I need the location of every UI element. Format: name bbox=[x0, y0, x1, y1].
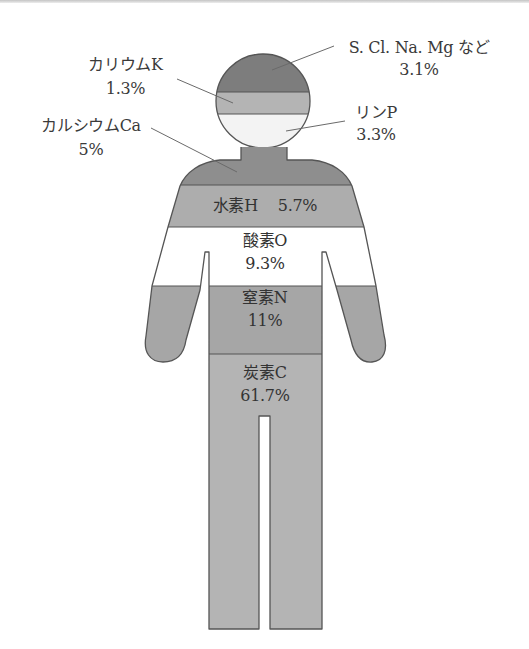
band-other-elements bbox=[200, 50, 330, 92]
label-oxygen-value: 9.3% bbox=[215, 254, 315, 274]
label-carbon: 炭素C 61.7% bbox=[215, 363, 315, 406]
label-calcium-name: カルシウムCa bbox=[28, 116, 154, 136]
label-hydrogen-name: 水素H bbox=[213, 196, 258, 215]
label-nitrogen-value: 11% bbox=[215, 311, 315, 331]
label-oxygen-name: 酸素O bbox=[215, 231, 315, 251]
label-phosphorus-name: リンP bbox=[340, 103, 412, 123]
label-hydrogen-value: 5.7% bbox=[278, 196, 317, 215]
label-hydrogen: 水素H5.7% bbox=[190, 196, 340, 216]
label-phosphorus-value: 3.3% bbox=[340, 125, 412, 145]
label-other-elements: S. Cl. Na. Mg など 3.1% bbox=[333, 38, 505, 80]
label-other-name: S. Cl. Na. Mg など bbox=[333, 38, 505, 58]
label-phosphorus: リンP 3.3% bbox=[340, 103, 412, 145]
label-carbon-name: 炭素C bbox=[215, 363, 315, 383]
label-potassium-value: 1.3% bbox=[78, 79, 173, 99]
label-nitrogen-name: 窒素N bbox=[215, 288, 315, 308]
label-other-value: 3.1% bbox=[333, 60, 505, 80]
leader-line-calcium bbox=[151, 128, 237, 172]
label-potassium: カリウムK 1.3% bbox=[78, 55, 173, 99]
label-calcium: カルシウムCa 5% bbox=[28, 116, 154, 160]
label-oxygen: 酸素O 9.3% bbox=[215, 231, 315, 274]
label-calcium-value: 5% bbox=[28, 140, 154, 160]
label-carbon-value: 61.7% bbox=[215, 386, 315, 406]
label-nitrogen: 窒素N 11% bbox=[215, 288, 315, 331]
label-potassium-name: カリウムK bbox=[78, 55, 173, 75]
